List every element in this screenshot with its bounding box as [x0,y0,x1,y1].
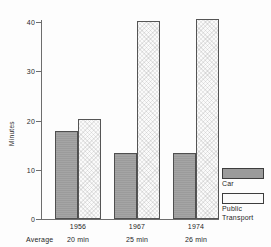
y-tick-label-10: 10 [13,167,35,174]
caption-1956: 20 min [56,236,100,243]
y-tick-label-20: 20 [13,118,35,125]
y-tick-0 [36,219,42,220]
chart-container: Minutes 40 30 20 10 0 1956 20 min 1967 2… [0,0,271,247]
bar-public-transport-1967 [137,21,160,219]
legend-swatch-car [222,168,264,179]
legend-label-car: Car [222,180,270,189]
bar-public-transport-1956 [78,119,101,219]
chart-legend: Car Public Transport [222,168,270,223]
y-tick-label-40: 40 [13,19,35,26]
y-tick-30 [36,71,42,72]
x-tick-label-1967: 1967 [115,223,159,230]
bar-car-1967 [114,153,137,219]
x-tick-label-1974: 1974 [174,223,218,230]
y-axis-line [41,20,42,220]
y-tick-20 [36,121,42,122]
caption-1967: 25 min [115,236,159,243]
caption-prefix-average: Average [26,236,53,243]
caption-1974: 26 min [174,236,218,243]
y-tick-label-0: 0 [13,216,35,223]
y-tick-40 [36,22,42,23]
x-axis-line [41,219,219,220]
legend-label-public-transport-line1: Public [222,205,270,214]
legend-label-public-transport-line2: Transport [222,214,270,223]
bar-car-1974 [173,153,196,219]
bar-chart-plot: Minutes 40 30 20 10 0 1956 20 min 1967 2… [0,0,271,247]
y-tick-label-30: 30 [13,68,35,75]
bar-public-transport-1974 [196,19,219,219]
x-tick-label-1956: 1956 [56,223,100,230]
legend-swatch-public-transport [222,193,264,204]
y-axis-title: Minutes [8,109,15,159]
bar-car-1956 [55,131,78,219]
y-tick-10 [36,170,42,171]
